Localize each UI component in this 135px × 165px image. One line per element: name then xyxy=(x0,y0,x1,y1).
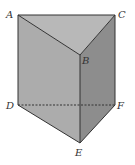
label-b: B xyxy=(81,55,89,66)
label-e: E xyxy=(74,147,83,158)
label-c: C xyxy=(118,9,126,20)
label-f: F xyxy=(116,100,125,111)
prism-diagram: A B C D E F xyxy=(0,0,135,165)
label-d: D xyxy=(5,100,14,111)
label-a: A xyxy=(5,9,13,20)
